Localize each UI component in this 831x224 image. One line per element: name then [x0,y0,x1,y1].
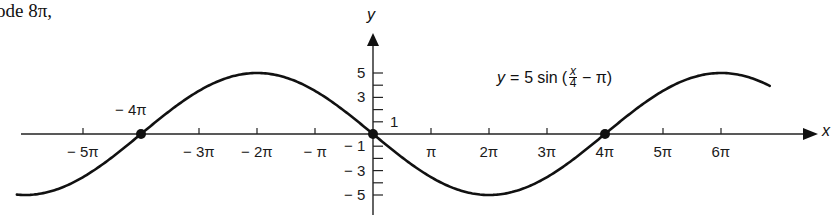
x-tick-label: 2π [480,143,499,160]
y-tick-label: 5 [357,64,365,81]
x-tick-label: − 3π [183,143,215,160]
y-axis-arrow-icon [367,33,379,46]
eq-coef: 5 [524,69,533,87]
eq-func: sin [537,69,557,87]
y-tick-label: − 1 [344,137,365,154]
eq-equals: = [510,69,519,87]
axes [21,33,818,215]
eq-fraction: x 4 [569,66,577,89]
eq-frac-den: 4 [570,78,577,89]
zero-crossing-dot [136,129,146,139]
x-axis-label: x [822,122,830,140]
x-tick-label: − 4π [115,101,147,118]
eq-rest: − π) [582,69,612,87]
eq-open: ( [562,69,567,87]
x-tick-label: 3π [538,143,557,160]
x-tick-label: π [426,143,436,160]
x-tick-label: − 2π [241,143,273,160]
y-tick-label: − 3 [344,162,365,179]
y-tick-label: − 5 [344,186,365,203]
equation-label: y = 5 sin ( x 4 − π) [497,66,612,89]
x-tick-label: 6π [712,143,731,160]
eq-lhs: y [497,69,505,87]
y-tick-label: 1 [390,113,398,130]
y-axis-label: y [367,6,375,24]
y-tick-label: 3 [357,88,365,105]
x-axis-arrow-icon [803,128,818,140]
x-tick-label: − π [304,143,327,160]
x-tick-label: 4π [596,143,615,160]
zero-crossing-dot [600,129,610,139]
x-tick-label: 5π [654,143,673,160]
x-tick-label: − 5π [67,143,99,160]
zero-crossing-dot [368,129,378,139]
